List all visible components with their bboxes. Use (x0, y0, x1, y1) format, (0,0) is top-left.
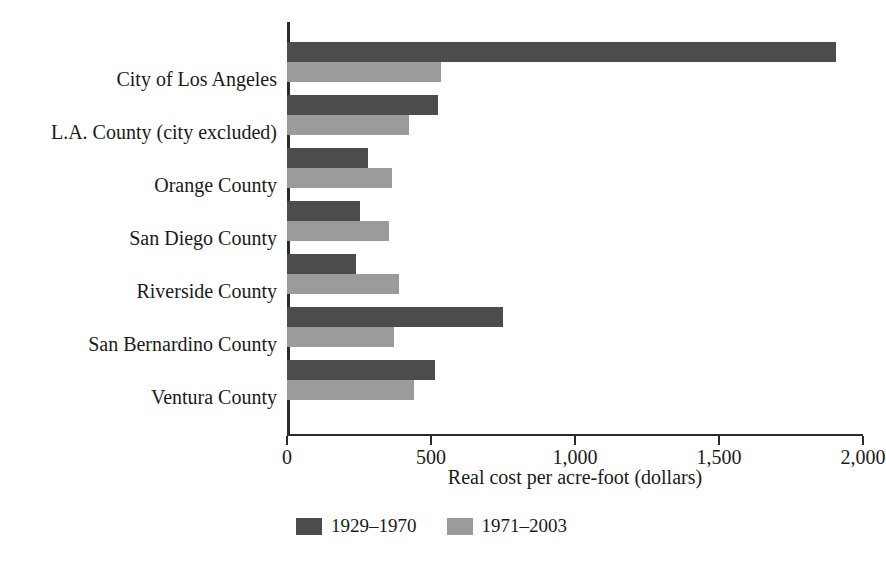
bar-series-1929-1970 (287, 201, 360, 221)
bar-series-1929-1970 (287, 360, 435, 380)
bar-series-1971-2003 (287, 62, 441, 82)
bar-series-1929-1970 (287, 95, 438, 115)
x-axis-tick (574, 436, 576, 445)
bar-series-1971-2003 (287, 221, 389, 241)
chart-legend: 1929–1970 1971–2003 (0, 515, 863, 537)
bar-series-1929-1970 (287, 42, 836, 62)
x-axis-tick (286, 436, 288, 445)
bar-series-1971-2003 (287, 327, 394, 347)
category-label: L.A. County (city excluded) (0, 121, 277, 144)
legend-swatch-icon (447, 518, 473, 535)
x-axis-tick (430, 436, 432, 445)
bar-series-1971-2003 (287, 380, 414, 400)
category-label: San Diego County (0, 227, 277, 250)
bar-series-1929-1970 (287, 254, 356, 274)
x-axis-title: Real cost per acre-foot (dollars) (287, 466, 863, 489)
legend-swatch-icon (296, 518, 322, 535)
bar-series-1971-2003 (287, 274, 399, 294)
category-label: San Bernardino County (0, 333, 277, 356)
category-label: Orange County (0, 174, 277, 197)
category-label: Ventura County (0, 386, 277, 409)
bar-series-1929-1970 (287, 307, 503, 327)
legend-label: 1929–1970 (331, 515, 417, 537)
category-axis-labels: City of Los Angeles L.A. County (city ex… (0, 22, 277, 434)
legend-item: 1929–1970 (296, 515, 417, 537)
category-label: Riverside County (0, 280, 277, 303)
bar-series-1929-1970 (287, 148, 368, 168)
plot-area: 0 500 1,000 1,500 2,000 (287, 22, 863, 434)
legend-label: 1971–2003 (482, 515, 568, 537)
bar-series-1971-2003 (287, 115, 409, 135)
legend-item: 1971–2003 (447, 515, 568, 537)
category-label: City of Los Angeles (0, 68, 277, 91)
x-axis-tick (718, 436, 720, 445)
bar-series-1971-2003 (287, 168, 392, 188)
x-axis-tick (862, 436, 864, 445)
